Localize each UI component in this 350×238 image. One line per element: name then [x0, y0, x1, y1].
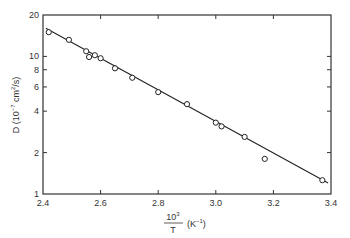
data-point	[156, 90, 161, 95]
y-tick-label: 6	[34, 82, 39, 92]
data-point	[219, 124, 224, 129]
x-tick-label: 3.0	[210, 198, 223, 208]
data-points	[46, 30, 325, 183]
x-axis-label: 103 T (K−1)	[164, 211, 206, 235]
svg-text:(K−1): (K−1)	[187, 218, 206, 229]
y-tick-label: 20	[29, 10, 39, 20]
data-point	[92, 53, 97, 58]
data-point	[66, 37, 71, 42]
y-tick-label: 2	[34, 148, 39, 158]
data-point	[184, 102, 189, 107]
y-axis-label: D (10−7 cm2/s)	[10, 77, 21, 134]
x-tick-label: 3.2	[267, 198, 280, 208]
x-tick-label: 2.4	[37, 198, 50, 208]
y-tick-label: 4	[34, 106, 39, 116]
data-point	[98, 56, 103, 61]
svg-text:103: 103	[166, 211, 180, 222]
x-tick-label: 3.4	[325, 198, 338, 208]
data-point	[262, 156, 267, 161]
chart: 2.42.62.83.03.23.4 124681020 103 T (K−1)…	[0, 0, 350, 238]
y-axis-ticks: 124681020	[29, 10, 331, 199]
data-point	[130, 75, 135, 80]
x-axis-ticks: 2.42.62.83.03.23.4	[37, 15, 338, 208]
data-point	[46, 30, 51, 35]
x-tick-label: 2.8	[152, 198, 165, 208]
data-point	[86, 54, 91, 59]
data-point	[112, 66, 117, 71]
x-tick-label: 2.6	[94, 198, 107, 208]
data-point	[84, 49, 89, 54]
y-tick-label: 1	[34, 189, 39, 199]
svg-text:T: T	[170, 225, 176, 235]
y-tick-label: 10	[29, 51, 39, 61]
data-point	[320, 178, 325, 183]
data-point	[242, 134, 247, 139]
y-tick-label: 8	[34, 65, 39, 75]
data-point	[213, 120, 218, 125]
svg-text:D (10−7 cm2/s): D (10−7 cm2/s)	[10, 77, 21, 134]
